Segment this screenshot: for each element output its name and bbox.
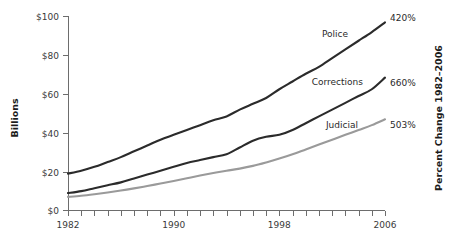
y-axis-title: Billions	[9, 98, 20, 138]
series-line-police	[68, 22, 385, 173]
y-tick-label-20: $20	[42, 168, 59, 178]
x-axis-ticks	[69, 211, 386, 216]
value-label-corrections: 660%	[390, 78, 416, 88]
y-tick-label-40: $40	[42, 129, 59, 139]
y2-axis-title: Percent Change 1982–2006	[433, 45, 444, 191]
y-tick-label-60: $60	[42, 90, 59, 100]
x-tick-label-1998: 1998	[268, 220, 291, 230]
expenditure-line-chart: $100 $80 $60 $40 $20 $0 1982 1990 1998 2…	[0, 0, 460, 244]
series-line-corrections	[68, 78, 385, 193]
y-tick-label-80: $80	[42, 51, 59, 61]
x-tick-label-1990: 1990	[162, 220, 185, 230]
x-tick-label-2006: 2006	[374, 220, 397, 230]
series-label-judicial: Judicial	[325, 120, 358, 130]
y-axis-ticks	[63, 17, 68, 211]
chart-canvas: $100 $80 $60 $40 $20 $0 1982 1990 1998 2…	[0, 0, 460, 244]
y-tick-label-100: $100	[36, 12, 59, 22]
series-label-corrections: Corrections	[312, 77, 364, 87]
y-tick-label-0: $0	[48, 206, 60, 216]
value-label-judicial: 503%	[390, 120, 416, 130]
series-label-police: Police	[322, 29, 349, 39]
value-label-police: 420%	[390, 13, 416, 23]
x-tick-label-1982: 1982	[57, 220, 80, 230]
